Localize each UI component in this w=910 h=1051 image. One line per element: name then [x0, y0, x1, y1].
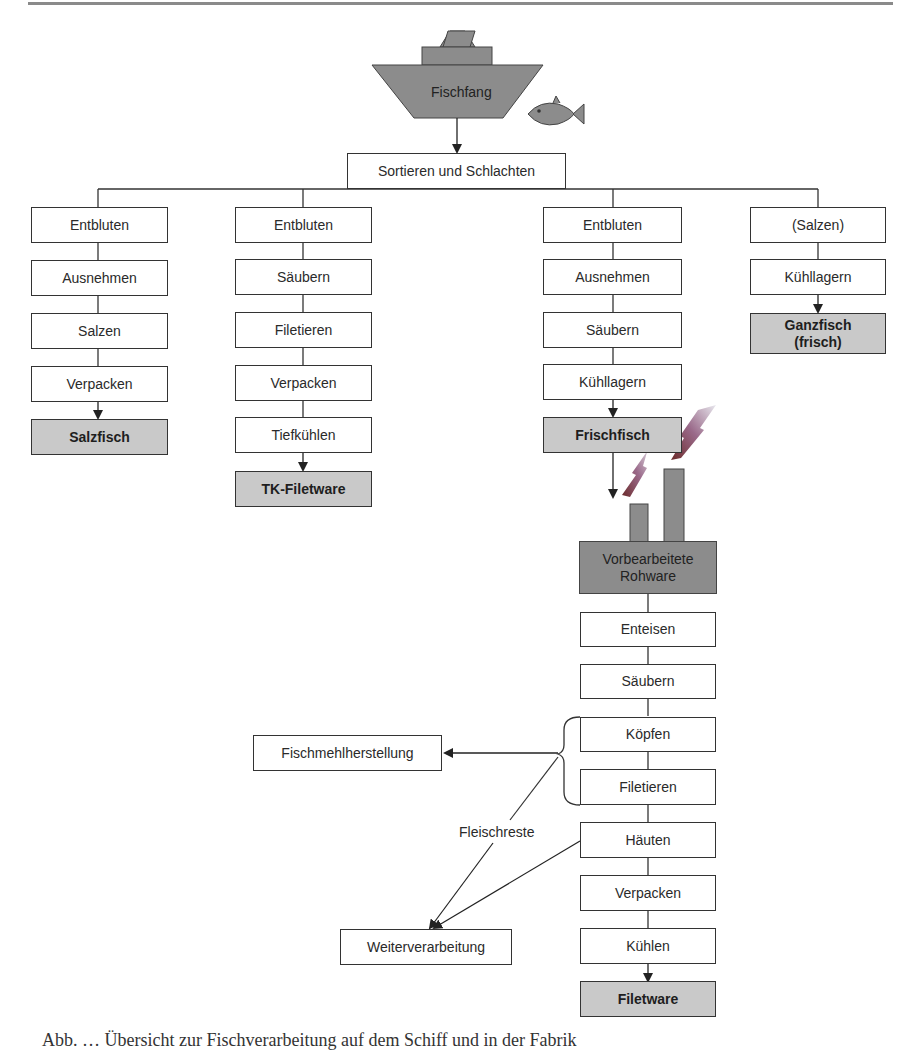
step-box: Entbluten — [543, 207, 682, 243]
step-box: (Salzen) — [750, 207, 886, 243]
step-box: Säubern — [543, 312, 682, 348]
factory-step-box: Köpfen — [580, 717, 716, 752]
step-box: Entbluten — [235, 207, 372, 243]
residue-label: Fleischreste — [457, 824, 536, 840]
factory-input-box: Vorbearbeitete Rohware — [579, 541, 717, 594]
step-box: Ausnehmen — [31, 260, 168, 296]
factory-step-box: Kühlen — [580, 928, 716, 964]
sort-step-box: Sortieren und Schlachten — [347, 153, 566, 189]
step-box: Salzen — [31, 313, 168, 349]
product-box-ganzfisch: Ganzfisch (frisch) — [750, 313, 886, 354]
bracket — [558, 717, 580, 805]
factory-step-box: Filetieren — [580, 769, 716, 805]
step-box: Kühllagern — [543, 364, 682, 400]
product-box-salzfisch: Salzfisch — [31, 419, 168, 455]
step-box: Filetieren — [235, 312, 372, 348]
step-box: Verpacken — [235, 365, 372, 401]
fish-icon — [528, 96, 584, 125]
step-box: Ausnehmen — [543, 259, 682, 295]
product-box-frischfisch: Frischfisch — [543, 417, 682, 453]
step-box: Kühllagern — [750, 259, 886, 295]
product-label: Ganzfisch (frisch) — [773, 317, 863, 351]
factory-step-box: Häuten — [580, 822, 716, 858]
ship-icon — [372, 31, 543, 118]
factory-step-box: Säubern — [580, 664, 716, 699]
step-box: Säubern — [235, 259, 372, 295]
factory-step-box: Verpacken — [580, 875, 716, 911]
source-label: Fischfang — [431, 84, 492, 100]
step-box: Entbluten — [31, 207, 168, 243]
step-box: Verpacken — [31, 366, 168, 402]
further-processing-box: Weiterverarbeitung — [340, 929, 512, 965]
fishmeal-box: Fischmehlherstellung — [253, 735, 442, 771]
figure-caption: Abb. … Übersicht zur Fischverarbeitung a… — [42, 1030, 577, 1051]
step-box: Tiefkühlen — [235, 417, 372, 453]
factory-step-box: Enteisen — [580, 612, 716, 647]
factory-input-label: Vorbearbeitete Rohware — [593, 551, 703, 585]
product-box-tk-filetware: TK-Filetware — [235, 471, 372, 507]
product-box-filetware: Filetware — [580, 981, 716, 1017]
